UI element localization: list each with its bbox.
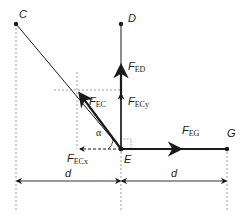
label-d: D [128, 12, 136, 24]
label-fed: FED [128, 60, 146, 74]
joint-e [119, 147, 124, 152]
label-dimension-right: d [171, 167, 178, 179]
member-ce [16, 24, 121, 149]
truss-diagram: C D E G FEC FED FECy FECx FEG α d d [0, 0, 245, 222]
joint-g [225, 147, 229, 151]
label-fec: FEC [89, 95, 106, 109]
joint-c [14, 22, 18, 26]
label-g: G [227, 127, 236, 139]
joint-d [119, 22, 123, 26]
label-dimension-left: d [65, 167, 72, 179]
label-alpha: α [96, 127, 102, 138]
label-fecy: FECy [128, 95, 149, 109]
label-c: C [19, 8, 27, 20]
angle-arc [108, 139, 113, 149]
label-feg: FEG [182, 124, 200, 138]
label-e: E [124, 153, 132, 165]
label-fecx: FECx [67, 152, 88, 166]
